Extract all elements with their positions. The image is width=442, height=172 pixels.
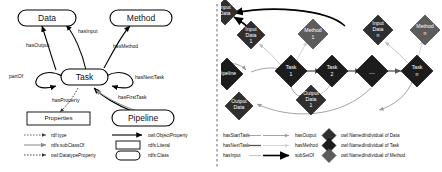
right-legend: hasStartTask hasNextTask hasInput hasOut… xyxy=(223,129,406,163)
node-pipeline[interactable]: Pipeline xyxy=(221,58,243,90)
legend-label-rdfs-subclassof: rdfs:subClassOf xyxy=(51,143,85,148)
node-method-n[interactable]: Method n xyxy=(410,15,440,45)
legend-label-hasinput: hasInput xyxy=(223,153,241,158)
node-input-data-1[interactable]: Input Data 1 xyxy=(237,21,265,49)
node-method-n-line2: n xyxy=(424,30,427,36)
node-method-1-line2: 1 xyxy=(312,34,315,40)
node-input-data-n-line3: n xyxy=(377,32,380,38)
node-task-1-line1: Task xyxy=(286,64,297,70)
edge-label-hasOutput: hasOutput xyxy=(26,42,50,48)
node-pipeline-label: Pipeline xyxy=(128,113,159,123)
left-ontology-schema-panel: Data Method Task Pipeline Properties has… xyxy=(0,0,221,172)
node-method-label: Method xyxy=(127,13,156,23)
node-task-2-line1: Task xyxy=(327,64,338,70)
left-edge-labels: hasOutput hasInput hasMethod partOf hasN… xyxy=(9,28,165,103)
node-task-2[interactable]: Task 2 xyxy=(316,55,348,87)
legend-item-namedindividual-data: owl:NamedIndividual of Data xyxy=(322,129,400,143)
edge-label-hasFirstTask: hasFirstTask xyxy=(118,94,147,100)
edge-label-hasMethod: hasMethod xyxy=(113,43,138,49)
node-pipeline[interactable]: Pipeline xyxy=(112,110,174,126)
node-task-label: Task xyxy=(76,72,94,82)
edge-label-hasInput: hasInput xyxy=(78,28,98,34)
legend-label-subsetof: subSetOf xyxy=(295,153,315,158)
left-diagram-svg: Data Method Task Pipeline Properties has… xyxy=(0,0,221,172)
node-output-data-1-line3: 1 xyxy=(310,102,313,108)
legend-label-hasmethod: hasMethod xyxy=(295,143,318,148)
legend-label-hasoutput: hasOutput xyxy=(295,133,317,138)
node-method-n-line1: Method xyxy=(416,23,433,29)
legend-label-rdf-type: rdf:type xyxy=(51,133,67,138)
edge-hasFirstTask xyxy=(94,88,134,112)
legend-label-rdfs-class: rdfs:Class xyxy=(148,153,169,158)
legend-item-owl-objectproperty: owl:ObjectProperty xyxy=(112,133,188,138)
node-task-1[interactable]: Task 1 xyxy=(275,55,307,87)
node-task-ellipsis[interactable]: ... xyxy=(356,55,388,87)
edge-hasOutput xyxy=(42,26,56,70)
node-data-label: Data xyxy=(38,13,56,23)
legend-item-owl-datatypeproperty: owl:DatatypeProperty xyxy=(24,153,96,158)
legend-item-subsetof: subSetOf xyxy=(263,153,315,158)
legend-label-ni-method: owl:NamedIndividual of Method xyxy=(341,153,406,158)
node-method-1[interactable]: Method 1 xyxy=(298,19,328,49)
legend-item-rdf-type: rdf:type xyxy=(24,133,67,138)
node-output-data-n-line2: Data xyxy=(234,104,245,110)
node-properties[interactable]: Properties xyxy=(27,112,90,125)
legend-label-owl-datatypeproperty: owl:DatatypeProperty xyxy=(51,153,96,158)
legend-item-namedindividual-task: owl:NamedIndividual of Task xyxy=(322,139,400,153)
node-task-n-line2: n xyxy=(416,71,419,77)
node-input-data-0-line2: Data xyxy=(221,10,231,16)
node-task-2-line2: 2 xyxy=(331,71,334,77)
node-properties-label: Properties xyxy=(44,114,72,121)
right-instance-graph-panel: Input Data Input Data 1 Method 1 Input D… xyxy=(221,0,442,172)
node-task-ellipsis-label: ... xyxy=(369,68,375,75)
legend-swatch-ni-method xyxy=(322,149,336,163)
edge-hasNextTask-selfloop xyxy=(106,73,133,88)
legend-item-rdfs-class: rdfs:Class xyxy=(116,151,169,160)
edge-hasOutput-taskn xyxy=(379,80,413,110)
edge-hasInput-taskn xyxy=(385,42,409,64)
node-input-data-1-line3: 1 xyxy=(250,38,253,44)
edge-label-hasNextTask: hasNextTask xyxy=(135,74,165,80)
right-diagram-svg: Input Data Input Data 1 Method 1 Input D… xyxy=(221,0,442,172)
legend-label-ni-data: owl:NamedIndividual of Data xyxy=(341,133,400,138)
node-method-1-line1: Method xyxy=(304,27,321,33)
legend-swatch-rdfs-class xyxy=(116,151,140,160)
edge-label-hasProperty: hasProperty xyxy=(52,97,80,103)
legend-label-owl-objectproperty: owl:ObjectProperty xyxy=(148,133,188,138)
node-method[interactable]: Method xyxy=(110,10,172,26)
legend-swatch-rdfs-literal xyxy=(116,141,140,149)
node-input-data-n[interactable]: Input Data n xyxy=(363,15,393,45)
legend-item-namedindividual-method: owl:NamedIndividual of Method xyxy=(322,149,406,163)
edge-hasInput-task1 xyxy=(259,44,283,68)
left-legend: rdf:type rdfs:subClassOf owl:DatatypePro… xyxy=(24,133,188,160)
legend-item-hasmethod: hasMethod xyxy=(263,143,318,148)
node-input-data-0[interactable]: Input Data xyxy=(221,0,238,25)
node-task-n-line1: Task xyxy=(412,64,423,70)
node-pipeline-label: Pipeline xyxy=(221,70,236,76)
node-output-data-1[interactable]: Output Data 1 xyxy=(296,85,326,115)
figure-root: Data Method Task Pipeline Properties has… xyxy=(0,0,442,172)
legend-item-rdfs-literal: rdfs:Literal xyxy=(116,141,170,149)
node-data[interactable]: Data xyxy=(18,10,76,26)
node-task-1-line2: 1 xyxy=(290,71,293,77)
legend-label-hasnexttask: hasNextTask xyxy=(223,143,250,148)
edge-label-partOf: partOf xyxy=(9,73,24,79)
node-task-n[interactable]: Task n xyxy=(401,55,433,87)
legend-label-ni-task: owl:NamedIndividual of Task xyxy=(341,143,400,148)
legend-item-rdfs-subclassof: rdfs:subClassOf xyxy=(24,143,85,148)
legend-label-hasstarttask: hasStartTask xyxy=(223,133,250,138)
edge-partOf-selfloop xyxy=(36,73,62,88)
node-task[interactable]: Task xyxy=(61,69,108,85)
node-output-data-n[interactable]: Output Data xyxy=(225,92,253,120)
legend-item-hasoutput: hasOutput xyxy=(263,133,317,138)
legend-label-rdfs-literal: rdfs:Literal xyxy=(148,143,170,148)
